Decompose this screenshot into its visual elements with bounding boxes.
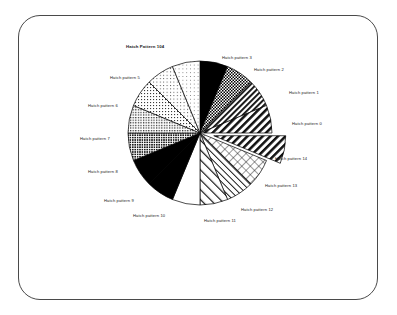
pie-slice-label: Hatch pattern 3 [222, 56, 252, 60]
pie-slice-group [128, 61, 286, 205]
pie-slice-label: Hatch pattern 14 [275, 157, 307, 161]
pie-chart-svg [0, 0, 397, 315]
pie-chart: Hatch pattern 0Hatch pattern 1Hatch patt… [0, 0, 397, 315]
pie-slice-label: Hatch pattern 8 [88, 170, 118, 174]
pie-slice-label: Hatch pattern 7 [80, 137, 110, 141]
pie-slice-label: Hatch pattern 12 [241, 208, 273, 212]
pie-slice-label: Hatch pattern 9 [104, 199, 134, 203]
pie-slice-label: Hatch Pattern 104 [126, 45, 164, 49]
pie-slice-label: Hatch pattern 0 [292, 122, 322, 126]
screenshot-root: Hatch pattern 0Hatch pattern 1Hatch patt… [0, 0, 397, 315]
pie-slice-label: Hatch pattern 6 [88, 104, 118, 108]
pie-slice-label: Hatch pattern 13 [265, 184, 297, 188]
pie-slice-label: Hatch pattern 2 [254, 68, 284, 72]
pie-slice-label: Hatch pattern 10 [133, 214, 165, 218]
pie-slice-label: Hatch pattern 11 [204, 219, 236, 223]
pie-slice-label: Hatch pattern 1 [289, 91, 319, 95]
pie-slice-label: Hatch pattern 5 [110, 76, 140, 80]
